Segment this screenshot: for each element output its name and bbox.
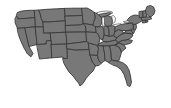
state-ME[interactable]: Maine <box>146 6 156 17</box>
state-NM[interactable]: New Mexico <box>51 44 67 59</box>
us-map-svg: Washington Oregon California Nevada Idah… <box>0 0 171 108</box>
state-ND[interactable]: North Dakota <box>65 8 83 16</box>
state-CO[interactable]: Colorado <box>51 32 67 44</box>
state-WY[interactable]: Wyoming <box>43 21 66 33</box>
us-map-figure: Washington Oregon California Nevada Idah… <box>0 0 171 108</box>
state-MT[interactable]: Montana <box>39 8 65 22</box>
state-SD[interactable]: South Dakota <box>65 16 83 26</box>
lake-michigan: Lake Michigan <box>102 17 105 27</box>
state-MI[interactable]: Michigan <box>104 16 113 27</box>
state-OR[interactable]: Oregon <box>15 16 35 28</box>
state-VT[interactable]: Vermont <box>139 11 143 18</box>
